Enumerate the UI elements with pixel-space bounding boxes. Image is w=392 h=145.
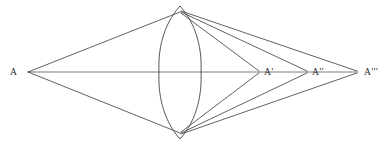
ray-bottom-vertex-to-A-triple-prime	[181, 73, 357, 134]
lens-left-arc	[159, 6, 180, 139]
ray-A-to-bottom-vertex	[28, 72, 180, 133]
ray-top-vertex-to-A-prime	[181, 13, 259, 71]
ray-bottom-vertex-to-A-double-prime	[181, 73, 307, 133]
ray-top-vertex-to-A-double-prime	[181, 12, 307, 71]
label-point-A-triple-prime: A'''	[364, 67, 378, 77]
label-point-A-prime: A'	[264, 67, 274, 77]
label-point-A-double-prime: A''	[312, 67, 324, 77]
ray-A-to-top-vertex	[28, 12, 180, 72]
geometric-diagram: A A' A'' A'''	[0, 0, 392, 145]
ray-bottom-vertex-to-A-prime	[181, 73, 259, 132]
ray-top-vertex-to-A-triple-prime	[181, 11, 357, 71]
label-point-A: A	[10, 67, 17, 77]
diagram-canvas: A A' A'' A'''	[0, 0, 392, 145]
